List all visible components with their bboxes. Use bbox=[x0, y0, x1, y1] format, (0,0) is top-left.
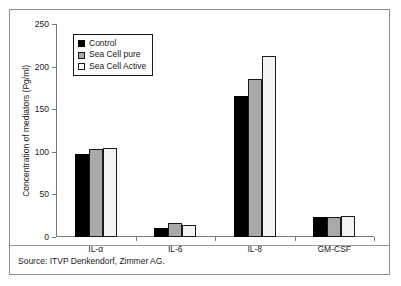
bar bbox=[262, 56, 276, 237]
source-caption: Source: ITVP Denkendorf, Zimmer AG. bbox=[18, 257, 165, 266]
source-divider bbox=[10, 245, 389, 246]
y-tick-label: 0 bbox=[44, 233, 49, 242]
y-tick bbox=[52, 194, 56, 195]
bar bbox=[75, 154, 89, 237]
legend-swatch-icon bbox=[78, 52, 85, 59]
y-tick bbox=[52, 152, 56, 153]
y-axis-title-label: Concentration of mediators (Pg/ml) bbox=[22, 65, 31, 197]
bar bbox=[103, 148, 117, 237]
y-tick bbox=[52, 24, 56, 25]
bar bbox=[168, 223, 182, 237]
y-tick-label: 250 bbox=[35, 20, 49, 29]
legend-item-label: Sea Cell pure bbox=[89, 49, 141, 60]
x-tick bbox=[136, 237, 137, 241]
y-tick bbox=[52, 109, 56, 110]
y-tick-label: 200 bbox=[35, 62, 49, 71]
x-tick bbox=[374, 237, 375, 241]
bar bbox=[182, 225, 196, 237]
y-tick-label: 100 bbox=[35, 148, 49, 157]
bar bbox=[234, 96, 248, 237]
legend-swatch-icon bbox=[78, 40, 85, 47]
chart-frame: Concentration of mediators (Pg/ml) 05010… bbox=[9, 9, 390, 275]
bar bbox=[341, 216, 355, 237]
bar bbox=[313, 217, 327, 237]
bar bbox=[154, 228, 168, 237]
legend-swatch-icon bbox=[78, 63, 85, 70]
x-tick bbox=[215, 237, 216, 241]
bar bbox=[327, 217, 341, 237]
y-axis-line bbox=[56, 24, 57, 237]
bar bbox=[248, 79, 262, 237]
y-axis-title: Concentration of mediators (Pg/ml) bbox=[20, 24, 32, 237]
legend-item: Sea Cell pure bbox=[78, 49, 146, 60]
legend: Control Sea Cell pure Sea Cell Active bbox=[73, 34, 153, 76]
y-tick-label: 150 bbox=[35, 105, 49, 114]
y-tick bbox=[52, 67, 56, 68]
bar bbox=[89, 149, 103, 237]
y-tick-label: 50 bbox=[40, 190, 49, 199]
y-tick bbox=[52, 237, 56, 238]
legend-item: Sea Cell Active bbox=[78, 61, 146, 72]
x-tick-label: IL-6 bbox=[168, 245, 183, 254]
legend-item-label: Control bbox=[89, 38, 116, 49]
legend-item-label: Sea Cell Active bbox=[89, 61, 146, 72]
x-tick-label: IL-8 bbox=[247, 245, 262, 254]
x-tick bbox=[295, 237, 296, 241]
x-tick-label: GM-CSF bbox=[317, 245, 351, 254]
x-tick-label: IL-α bbox=[88, 245, 103, 254]
legend-item: Control bbox=[78, 38, 146, 49]
